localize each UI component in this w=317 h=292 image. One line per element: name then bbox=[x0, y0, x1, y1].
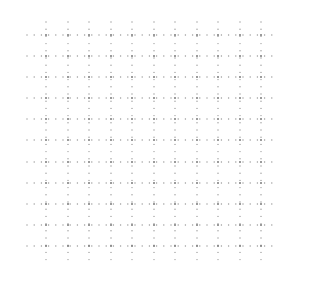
grid-intersection-dot bbox=[174, 224, 176, 226]
grid-dot bbox=[26, 161, 27, 162]
grid-dot bbox=[170, 245, 171, 246]
grid-dot bbox=[174, 252, 175, 253]
grid-intersection-dot bbox=[217, 182, 219, 184]
grid-dot bbox=[67, 252, 68, 253]
grid-dot bbox=[67, 180, 68, 181]
grid-dot bbox=[153, 216, 154, 217]
grid-dot bbox=[113, 203, 114, 204]
grid-dot bbox=[153, 115, 154, 116]
grid-dot bbox=[271, 76, 272, 77]
grid-dot bbox=[98, 161, 99, 162]
grid-intersection-dot bbox=[110, 118, 112, 120]
grid-dot bbox=[156, 245, 157, 246]
grid-intersection-dot bbox=[45, 34, 47, 36]
grid-dot bbox=[192, 245, 193, 246]
grid-dot bbox=[67, 165, 68, 166]
grid-dot bbox=[134, 139, 135, 140]
grid-dot bbox=[185, 139, 186, 140]
grid-dot bbox=[221, 76, 222, 77]
grid-intersection-dot bbox=[45, 224, 47, 226]
grid-dot bbox=[110, 101, 111, 102]
grid-dot bbox=[185, 55, 186, 56]
grid-dot bbox=[235, 203, 236, 204]
grid-dot bbox=[131, 259, 132, 260]
grid-dot bbox=[260, 57, 261, 58]
grid-dot bbox=[228, 97, 229, 98]
grid-dot bbox=[178, 34, 179, 35]
grid-dot bbox=[217, 230, 218, 231]
grid-dot bbox=[84, 245, 85, 246]
grid-dot bbox=[221, 245, 222, 246]
grid-dot bbox=[88, 158, 89, 159]
grid-dot bbox=[84, 224, 85, 225]
grid-dot bbox=[163, 118, 164, 119]
grid-dot bbox=[45, 50, 46, 51]
grid-dot bbox=[98, 203, 99, 204]
grid-dot bbox=[217, 151, 218, 152]
grid-dot bbox=[153, 252, 154, 253]
grid-dot bbox=[196, 79, 197, 80]
grid-dot bbox=[235, 76, 236, 77]
grid-dot bbox=[242, 55, 243, 56]
grid-dot bbox=[70, 55, 71, 56]
grid-dot bbox=[196, 115, 197, 116]
grid-dot bbox=[67, 79, 68, 80]
grid-dot bbox=[206, 245, 207, 246]
grid-dot bbox=[120, 203, 121, 204]
grid-dot bbox=[239, 115, 240, 116]
grid-dot bbox=[264, 203, 265, 204]
grid-dot bbox=[250, 182, 251, 183]
grid-dot bbox=[67, 259, 68, 260]
grid-dot bbox=[134, 224, 135, 225]
grid-dot bbox=[170, 34, 171, 35]
grid-intersection-dot bbox=[196, 224, 198, 226]
grid-dot bbox=[62, 76, 63, 77]
grid-dot bbox=[45, 144, 46, 145]
grid-dot bbox=[214, 182, 215, 183]
grid-dot bbox=[239, 187, 240, 188]
grid-dot bbox=[131, 216, 132, 217]
grid-intersection-dot bbox=[45, 76, 47, 78]
grid-dot bbox=[88, 230, 89, 231]
grid-dot bbox=[239, 108, 240, 109]
grid-dot bbox=[26, 55, 27, 56]
grid-dot bbox=[45, 194, 46, 195]
grid-dot bbox=[206, 139, 207, 140]
grid-dot bbox=[127, 245, 128, 246]
grid-dot bbox=[228, 76, 229, 77]
grid-dot bbox=[242, 161, 243, 162]
grid-dot bbox=[170, 118, 171, 119]
grid-intersection-dot bbox=[88, 182, 90, 184]
grid-dot bbox=[156, 203, 157, 204]
grid-dot bbox=[110, 115, 111, 116]
grid-dot bbox=[239, 50, 240, 51]
grid-dot bbox=[67, 93, 68, 94]
grid-dot bbox=[62, 161, 63, 162]
grid-dot bbox=[196, 201, 197, 202]
grid-dot bbox=[98, 118, 99, 119]
grid-dot bbox=[131, 129, 132, 130]
grid-intersection-dot bbox=[153, 139, 155, 141]
grid-dot bbox=[142, 224, 143, 225]
grid-dot bbox=[156, 76, 157, 77]
grid-dot bbox=[142, 161, 143, 162]
grid-intersection-dot bbox=[67, 139, 69, 141]
grid-intersection-dot bbox=[153, 76, 155, 78]
grid-intersection-dot bbox=[67, 224, 69, 226]
grid-dot bbox=[178, 224, 179, 225]
grid-dot bbox=[235, 182, 236, 183]
grid-dot bbox=[34, 34, 35, 35]
grid-intersection-dot bbox=[45, 161, 47, 163]
grid-dot bbox=[217, 72, 218, 73]
grid-dot bbox=[228, 224, 229, 225]
grid-dot bbox=[153, 230, 154, 231]
grid-dot bbox=[196, 57, 197, 58]
grid-dot bbox=[67, 216, 68, 217]
grid-dot bbox=[110, 252, 111, 253]
grid-dot bbox=[26, 182, 27, 183]
grid-dot bbox=[62, 97, 63, 98]
grid-intersection-dot bbox=[45, 203, 47, 205]
grid-dot bbox=[239, 201, 240, 202]
grid-dot bbox=[55, 245, 56, 246]
grid-dot bbox=[131, 72, 132, 73]
